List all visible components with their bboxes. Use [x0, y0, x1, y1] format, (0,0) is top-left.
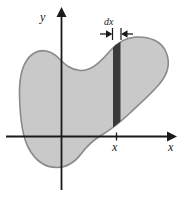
x-tick-label: x: [112, 141, 117, 153]
figure-container: y x x dx: [0, 0, 187, 197]
diagram-canvas: [0, 0, 187, 197]
shaded-blob-region: [19, 37, 168, 168]
dx-right-arrow-head: [121, 30, 127, 38]
dx-label: dx: [104, 17, 113, 27]
y-axis-label: y: [40, 11, 45, 23]
y-axis-arrowhead: [57, 7, 67, 17]
dx-left-arrow-head: [106, 30, 112, 38]
x-axis-label: x: [168, 141, 173, 153]
